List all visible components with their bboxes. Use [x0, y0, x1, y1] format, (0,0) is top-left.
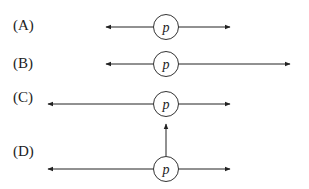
node-label: p [162, 20, 170, 35]
node-label: p [162, 162, 170, 177]
diagram-b: p [106, 52, 290, 77]
node-label: p [162, 97, 170, 112]
diagram-d: p [48, 124, 230, 182]
diagram-c: p [48, 92, 230, 117]
vector-diagram: p p p p [0, 0, 309, 189]
diagram-a: p [106, 15, 230, 40]
node-label: p [162, 57, 170, 72]
